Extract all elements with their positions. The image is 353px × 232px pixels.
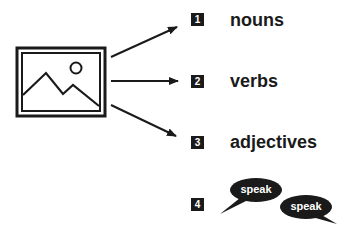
number-badge-1: 1 [191, 13, 204, 26]
label-nouns: nouns [230, 10, 284, 30]
label-verbs: verbs [230, 71, 278, 91]
speech-bubble-text-2: speak [280, 199, 332, 213]
speech-bubble-text-1: speak [230, 182, 282, 196]
number-badge-3: 3 [191, 136, 204, 149]
number-badge-2: 2 [191, 75, 204, 88]
picture-icon [17, 48, 105, 116]
arrow-to-nouns [111, 27, 177, 57]
number-badge-4: 4 [191, 198, 204, 211]
label-adjectives: adjectives [230, 132, 317, 152]
diagram-graphics [0, 0, 353, 232]
arrow-to-adjectives [111, 105, 176, 136]
